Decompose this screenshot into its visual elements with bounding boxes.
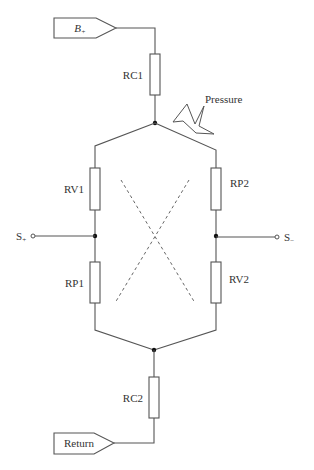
supply-tag: B+: [54, 18, 116, 38]
terminal-s-plus[interactable]: [31, 234, 35, 238]
resistor-rp2-body: [211, 168, 221, 210]
resistor-rp1-label: RP1: [65, 277, 84, 289]
resistor-rp2-label: RP2: [230, 177, 249, 189]
pressure-arrow: Pressure: [173, 93, 242, 134]
return-tag-label: Return: [64, 437, 94, 449]
return-tag: Return: [54, 433, 114, 454]
pressure-arrow-icon: [173, 104, 214, 134]
wire-supply: [116, 28, 155, 54]
terminal-s-minus-label: S−: [284, 231, 294, 245]
dashed-diagonal-1: [121, 180, 195, 303]
resistor-rp1: RP1: [65, 262, 100, 303]
circuit-diagram: B+ RC1 Pressure RV1 S+ RP1 RP2 S−: [0, 0, 314, 470]
resistor-rv1: RV1: [64, 168, 100, 210]
resistor-rp2: RP2: [211, 168, 249, 210]
resistor-rv1-label: RV1: [64, 183, 84, 195]
resistor-rc2-body: [149, 377, 159, 418]
pressure-label: Pressure: [205, 93, 242, 105]
resistor-rv1-body: [90, 168, 100, 210]
resistor-rv2-body: [211, 262, 221, 303]
resistor-rp1-body: [90, 262, 100, 303]
resistor-rc1: RC1: [123, 54, 160, 95]
wire-top-left: [95, 123, 155, 168]
dashed-diagonal-2: [115, 180, 189, 303]
terminal-s-minus[interactable]: [275, 235, 279, 239]
resistor-rc2-label: RC2: [123, 392, 143, 404]
resistor-rc2: RC2: [123, 377, 159, 418]
resistor-rc1-body: [150, 54, 160, 95]
resistor-rv2: RV2: [211, 262, 249, 303]
wire-return: [114, 418, 154, 443]
resistor-rc1-label: RC1: [123, 69, 143, 81]
wire-bottom-left: [95, 303, 154, 350]
resistor-rv2-label: RV2: [229, 273, 249, 285]
terminal-s-plus-label: S+: [16, 230, 26, 244]
wire-bottom-right: [154, 303, 216, 350]
